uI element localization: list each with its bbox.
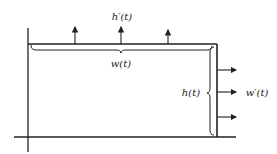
width-label: w(t) (111, 58, 131, 69)
rectangle-growth-diagram: h′(t) w(t) h(t) w′(t) (0, 0, 277, 154)
upward-arrows (75, 27, 168, 44)
side-rate-label: w′(t) (246, 87, 269, 98)
top-rate-label: h′(t) (112, 11, 133, 22)
rightward-arrows (217, 70, 236, 117)
height-brace (207, 47, 214, 135)
width-brace (31, 45, 212, 53)
height-label: h(t) (182, 87, 200, 98)
